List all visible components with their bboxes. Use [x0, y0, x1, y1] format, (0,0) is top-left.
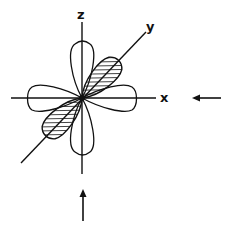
- z-axis-label: z: [77, 7, 85, 22]
- arrow-up-icon: [80, 189, 87, 221]
- origin-node: [79, 95, 85, 101]
- orbital-diagram: z y x: [0, 0, 229, 232]
- x-axis-label: x: [160, 90, 169, 105]
- arrow-left-icon: [192, 95, 221, 102]
- y-axis-label: y: [146, 19, 155, 34]
